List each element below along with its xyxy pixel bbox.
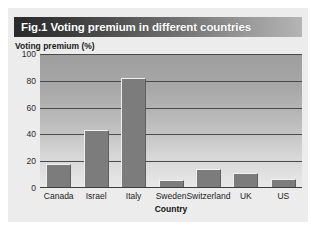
- x-tick-label: Israel: [86, 191, 107, 201]
- figure-title-bar: Fig.1 Voting premium in different countr…: [14, 17, 302, 37]
- plot-area: [40, 54, 302, 188]
- x-axis-label: Country: [40, 204, 302, 214]
- x-tick-label: Canada: [44, 191, 74, 201]
- x-tick-label: Sweden: [156, 191, 187, 201]
- x-axis-baseline: [40, 187, 302, 188]
- y-tick-label: 60: [27, 103, 36, 113]
- x-tick-label: UK: [240, 191, 252, 201]
- bar-switzerland[interactable]: [196, 169, 221, 188]
- y-tick-label: 80: [27, 76, 36, 86]
- y-tick-label: 100: [22, 49, 36, 59]
- chart-body: 020406080100 CanadaIsraelItalySwedenSwit…: [14, 54, 302, 214]
- bar-uk[interactable]: [233, 173, 258, 188]
- bar-israel[interactable]: [84, 130, 109, 188]
- figure-title: Fig.1 Voting premium in different countr…: [14, 21, 251, 33]
- x-tick-label: Switzerland: [186, 191, 230, 201]
- bar-series: [40, 54, 302, 188]
- y-axis-tick-labels: 020406080100: [14, 54, 38, 188]
- figure-card: Fig.1 Voting premium in different countr…: [8, 8, 308, 222]
- bar-canada[interactable]: [46, 164, 71, 188]
- x-tick-label: US: [277, 191, 289, 201]
- y-tick-label: 20: [27, 156, 36, 166]
- y-tick-label: 0: [31, 183, 36, 193]
- x-tick-label: Italy: [126, 191, 142, 201]
- x-axis-tick-labels: CanadaIsraelItalySwedenSwitzerlandUKUS: [40, 191, 302, 205]
- y-tick-label: 40: [27, 129, 36, 139]
- bar-italy[interactable]: [121, 78, 146, 188]
